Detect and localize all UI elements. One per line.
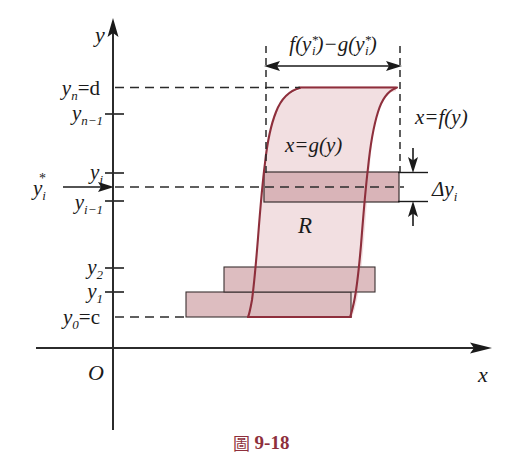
label-y-i-star: yi* — [31, 171, 46, 203]
label-y-2: y2 — [85, 255, 103, 282]
label-y-n-equals-d: yn=d — [60, 76, 101, 103]
label-curve-g: x=g(y) — [284, 133, 342, 157]
region-between-curves-diagram: f(y*i)−g(y*i) yn=d yn−1 yi yi−1 yi* y2 y… — [0, 0, 522, 472]
width-expression-label: f(y*i)−g(y*i) — [289, 32, 376, 58]
figure-caption-number: 9-18 — [255, 432, 290, 454]
label-y-1: y1 — [85, 279, 103, 306]
figure-container: f(y*i)−g(y*i) yn=d yn−1 yi yi−1 yi* y2 y… — [0, 0, 522, 472]
label-delta-y-i: Δyi — [431, 177, 458, 204]
label-origin: O — [88, 360, 104, 385]
label-y-0-equals-c: y0=c — [61, 305, 100, 332]
approximating-rectangle-2 — [224, 267, 375, 292]
label-curve-f: x=f(y) — [414, 105, 468, 129]
label-region-r: R — [297, 213, 312, 238]
label-y-n-minus-1: yn−1 — [70, 101, 103, 128]
figure-caption: 圖9-18 — [0, 430, 522, 455]
label-x-axis: x — [477, 362, 488, 387]
label-y-i-minus-1: yi−1 — [73, 190, 103, 217]
label-y-i: yi — [88, 160, 103, 187]
label-y-axis: y — [93, 22, 105, 47]
figure-caption-mark: 圖 — [233, 430, 250, 455]
approximating-rectangle-1 — [186, 292, 351, 317]
